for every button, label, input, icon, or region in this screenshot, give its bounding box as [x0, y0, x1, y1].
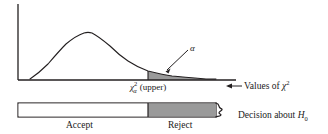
alpha-label: α: [190, 44, 195, 53]
values-prefix-text: Values of: [244, 81, 282, 91]
chi-square-test-figure: α χ2α(upper) Values of χ2 Accept Reject …: [0, 0, 328, 134]
decision-prefix-text: Decision about: [238, 110, 298, 120]
values-axis-label: Values of χ2: [244, 82, 289, 92]
critical-upper-text: (upper): [140, 82, 167, 92]
critical-exponent: 2: [134, 80, 137, 87]
decision-bar-accept-segment: [19, 104, 148, 117]
decision-about-label: Decision about H0: [238, 111, 308, 121]
null-hypothesis-symbol: H: [298, 110, 305, 120]
values-exponent: 2: [286, 79, 289, 86]
chi-square-curve: [30, 33, 216, 79]
reject-region-label: Reject: [168, 121, 192, 131]
values-arrow-head-icon: [226, 83, 232, 88]
critical-value-label: χ2α(upper): [130, 83, 166, 92]
critical-subscript: α: [133, 87, 136, 94]
accept-region-label: Accept: [66, 121, 93, 131]
alpha-leader-line: [167, 50, 188, 70]
decision-bar-break-icon: [216, 103, 222, 117]
null-hypothesis-subscript: 0: [305, 115, 308, 122]
decision-bar-reject-segment: [148, 104, 216, 117]
